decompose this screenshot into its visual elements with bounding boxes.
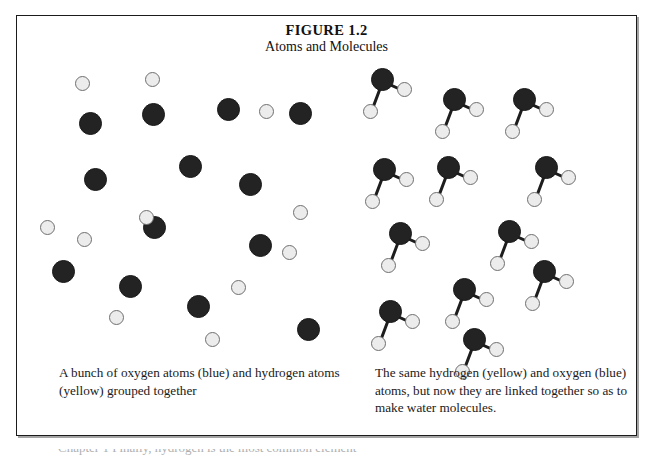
- hydrogen-atom: [40, 220, 55, 235]
- oxygen-atom: [453, 278, 476, 301]
- oxygen-atom: [119, 275, 142, 298]
- page-body-text-line: Chapter 1 Finally, hydrogen is the most …: [58, 449, 618, 456]
- oxygen-atom: [249, 234, 272, 257]
- figure-title: FIGURE 1.2: [17, 22, 636, 39]
- hydrogen-atom: [561, 170, 576, 185]
- hydrogen-atom: [397, 82, 412, 97]
- figure-subtitle: Atoms and Molecules: [17, 39, 636, 55]
- hydrogen-atom: [429, 192, 444, 207]
- oxygen-atom: [79, 112, 102, 135]
- oxygen-atom: [498, 220, 521, 243]
- oxygen-atom: [239, 173, 262, 196]
- caption-right: The same hydrogen (yellow) and oxygen (b…: [375, 364, 653, 417]
- oxygen-atom: [84, 168, 107, 191]
- oxygen-atom: [437, 156, 460, 179]
- page-body-text-clipped: Chapter 1 Finally, hydrogen is the most …: [58, 449, 618, 465]
- molecule-scene-water: [343, 60, 633, 360]
- hydrogen-atom: [505, 124, 520, 139]
- hydrogen-atom: [469, 102, 484, 117]
- oxygen-atom: [52, 260, 75, 283]
- hydrogen-atom: [381, 258, 396, 273]
- atom-scene-loose: [27, 60, 337, 360]
- hydrogen-atom: [405, 314, 420, 329]
- hydrogen-atom: [282, 245, 297, 260]
- figure-box: FIGURE 1.2 Atoms and Molecules A bunch o…: [16, 15, 637, 436]
- hydrogen-atom: [435, 124, 450, 139]
- oxygen-atom: [217, 98, 240, 121]
- hydrogen-atom: [145, 72, 160, 87]
- hydrogen-atom: [205, 332, 220, 347]
- oxygen-atom: [297, 318, 320, 341]
- hydrogen-atom: [371, 336, 386, 351]
- hydrogen-atom: [293, 205, 308, 220]
- hydrogen-atom: [399, 172, 414, 187]
- oxygen-atom: [289, 102, 312, 125]
- hydrogen-atom: [415, 236, 430, 251]
- oxygen-atom: [379, 300, 402, 323]
- oxygen-atom: [463, 328, 486, 351]
- hydrogen-atom: [139, 210, 154, 225]
- hydrogen-atom: [109, 310, 124, 325]
- hydrogen-atom: [231, 280, 246, 295]
- hydrogen-atom: [527, 192, 542, 207]
- oxygen-atom: [389, 222, 412, 245]
- oxygen-atom: [373, 158, 396, 181]
- oxygen-atom: [535, 156, 558, 179]
- hydrogen-atom: [363, 104, 378, 119]
- caption-left: A bunch of oxygen atoms (blue) and hydro…: [59, 364, 349, 399]
- hydrogen-atom: [77, 232, 92, 247]
- hydrogen-atom: [365, 194, 380, 209]
- hydrogen-atom: [75, 76, 90, 91]
- hydrogen-atom: [524, 234, 539, 249]
- oxygen-atom: [142, 103, 165, 126]
- oxygen-atom: [179, 155, 202, 178]
- oxygen-atom: [533, 260, 556, 283]
- hydrogen-atom: [489, 342, 504, 357]
- oxygen-atom: [187, 295, 210, 318]
- hydrogen-atom: [259, 104, 274, 119]
- panel-loose-atoms: [27, 60, 337, 360]
- hydrogen-atom: [445, 314, 460, 329]
- oxygen-atom: [443, 88, 466, 111]
- hydrogen-atom: [490, 256, 505, 271]
- hydrogen-atom: [539, 102, 554, 117]
- panel-water-molecules: [343, 60, 633, 360]
- oxygen-atom: [371, 68, 394, 91]
- oxygen-atom: [513, 88, 536, 111]
- hydrogen-atom: [463, 170, 478, 185]
- hydrogen-atom: [559, 274, 574, 289]
- hydrogen-atom: [525, 296, 540, 311]
- hydrogen-atom: [479, 292, 494, 307]
